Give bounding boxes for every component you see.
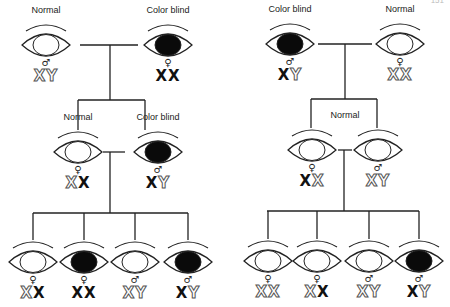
allele-y: Y [419,283,431,301]
allele-x: X [387,66,400,84]
right-grandchild-3-eye-icon [345,241,393,272]
left-child-1-eye-icon [54,132,102,163]
allele-y: Y [46,67,58,85]
left-child-2-eye-icon [134,132,182,163]
genotype-label: XY [176,284,200,302]
genotype-label: XY [357,283,381,301]
allele-x: X [71,284,84,302]
allele-x: X [20,284,33,302]
allele-x: X [34,67,47,85]
right-grandchild-1-eye-icon [244,241,292,272]
allele-x: X [312,172,325,190]
allele-x: X [78,174,91,192]
right-parent-1-label: Color blind [268,4,311,14]
genotype-label: XY [34,67,58,85]
genotype-label: XY [123,284,147,302]
genotype-label: XX [299,172,324,190]
left-child-1-label: Normal [63,112,92,122]
allele-y: Y [135,284,147,302]
right-parent-1-eye-icon [266,24,314,55]
allele-x: X [299,172,312,190]
right-parent-2-eye-icon [376,24,424,55]
allele-x: X [176,284,189,302]
allele-x: X [366,172,379,190]
genotype-label: XX [20,284,45,302]
allele-x: X [33,284,46,302]
genotype-label: XY [278,66,302,84]
allele-y: Y [369,283,381,301]
allele-x: X [268,283,281,301]
genotype-label: XY [407,283,431,301]
left-parent-1-label: Normal [31,5,60,15]
allele-x: X [400,66,413,84]
right-child-1-eye-icon [288,130,336,161]
left-grandchild-1-eye-icon [9,242,57,273]
right-grandchild-4-eye-icon [395,241,443,272]
allele-y: Y [290,66,302,84]
allele-x: X [255,283,268,301]
right-parent-2-label: Normal [385,4,414,14]
genotype-label: XX [304,283,329,301]
pedigree-lines [0,0,450,307]
right-grandchild-2-eye-icon [293,241,341,272]
allele-x: X [65,174,78,192]
allele-y: Y [188,284,200,302]
allele-x: X [407,283,420,301]
allele-x: X [357,283,370,301]
genotype-label: XX [255,283,280,301]
genotype-label: XY [146,174,170,192]
genotype-label: XX [155,67,180,85]
genotype-label: XY [366,172,390,190]
allele-x: X [304,283,317,301]
allele-x: X [146,174,159,192]
allele-y: Y [378,172,390,190]
genotype-label: XX [71,284,96,302]
allele-x: X [155,67,168,85]
left-parent-2-eye-icon [144,25,192,56]
allele-x: X [84,284,97,302]
left-parent-1-eye-icon [22,25,70,56]
left-child-2-label: Color blind [136,112,179,122]
allele-x: X [278,66,291,84]
genotype-label: XX [65,174,90,192]
left-grandchild-4-eye-icon [164,242,212,273]
genotype-label: XX [387,66,412,84]
right-child-2-eye-icon [354,130,402,161]
left-grandchild-3-eye-icon [111,242,159,273]
allele-x: X [168,67,181,85]
allele-y: Y [158,174,170,192]
color-blindness-inheritance-diagram: 151 Normal♂XYColor blind♀XXNormal♀XXColo… [0,0,450,307]
right-f1-label: Normal [330,110,359,120]
allele-x: X [123,284,136,302]
allele-x: X [317,283,330,301]
left-parent-2-label: Color blind [146,5,189,15]
left-grandchild-2-eye-icon [60,242,108,273]
